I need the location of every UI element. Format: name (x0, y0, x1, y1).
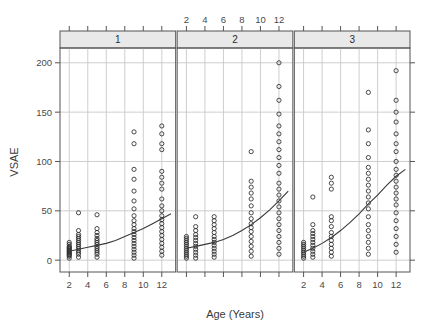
figure-background (0, 0, 428, 325)
y-tick-label: 200 (36, 57, 52, 68)
panel-strip-label: 3 (349, 34, 355, 45)
x-tick-label-bottom: 4 (85, 279, 90, 290)
y-axis-label: VSAE (8, 147, 20, 176)
x-tick-label-bottom: 10 (138, 279, 149, 290)
x-tick-label-top: 10 (255, 14, 266, 25)
x-tick-label-bottom: 12 (156, 279, 167, 290)
y-tick-label: 50 (41, 205, 52, 216)
y-tick-label: 0 (47, 255, 52, 266)
vsae-age-conditioned-scatterplot: VSAE Age (Years) 050100150200 123 246810… (0, 0, 428, 325)
x-tick-label-bottom: 10 (372, 279, 383, 290)
panel-strip-label: 2 (232, 34, 238, 45)
x-tick-label-bottom: 4 (319, 279, 324, 290)
x-tick-label-top: 12 (274, 14, 285, 25)
y-tick-label: 100 (36, 156, 52, 167)
panel-strip-label: 1 (115, 34, 121, 45)
x-tick-label-bottom: 12 (391, 279, 402, 290)
x-tick-label-bottom: 6 (338, 279, 343, 290)
y-tick-label: 150 (36, 107, 52, 118)
x-tick-label-bottom: 6 (104, 279, 109, 290)
x-tick-label-bottom: 8 (356, 279, 361, 290)
x-tick-label-top: 8 (239, 14, 244, 25)
x-tick-label-top: 2 (184, 14, 189, 25)
x-tick-label-bottom: 2 (301, 279, 306, 290)
x-tick-label-top: 6 (221, 14, 226, 25)
x-tick-label-bottom: 2 (67, 279, 72, 290)
x-tick-label-top: 4 (202, 14, 207, 25)
x-axis-label: Age (Years) (206, 308, 264, 320)
x-tick-label-bottom: 8 (122, 279, 127, 290)
